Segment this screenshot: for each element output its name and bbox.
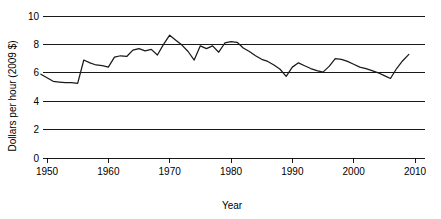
x-tick-labels: 1950196019701980199020002010 xyxy=(36,166,427,177)
y-tick-label: 10 xyxy=(28,11,40,22)
y-tick-label: 4 xyxy=(33,96,39,107)
x-tick-label: 2010 xyxy=(404,166,427,177)
line-chart: 0246810 1950196019701980199020002010 Dol… xyxy=(0,0,441,219)
x-tick-label: 1970 xyxy=(159,166,182,177)
x-tick-label: 1980 xyxy=(220,166,243,177)
y-tick-label: 8 xyxy=(33,39,39,50)
x-axis-title: Year xyxy=(222,200,243,211)
x-tick-label: 1990 xyxy=(281,166,304,177)
x-axis xyxy=(47,158,415,163)
y-tick-label: 6 xyxy=(33,67,39,78)
y-tick-label: 0 xyxy=(33,153,39,164)
chart-canvas: 0246810 1950196019701980199020002010 Dol… xyxy=(0,0,441,219)
data-series-line xyxy=(41,35,409,83)
x-tick-label: 2000 xyxy=(343,166,366,177)
y-tick-label: 2 xyxy=(33,124,39,135)
y-axis-title: Dollars per hour (2009 $) xyxy=(7,40,18,151)
gridlines xyxy=(43,16,425,158)
x-tick-label: 1960 xyxy=(97,166,120,177)
x-tick-label: 1950 xyxy=(36,166,59,177)
y-tick-labels: 0246810 xyxy=(28,11,40,164)
